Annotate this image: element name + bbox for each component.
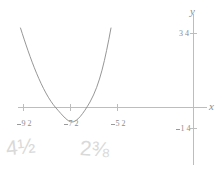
fraction: 7 2 [69, 120, 79, 128]
fraction: 3 4 [179, 30, 189, 38]
fraction-denominator: 2 [122, 119, 126, 128]
minus-sign [176, 129, 180, 130]
fraction-denominator: 2 [28, 119, 32, 128]
fraction: 5 2 [116, 120, 126, 128]
x-tick-label-neg-seven-halves: 7 2 [57, 113, 85, 135]
graph-figure: y x 9 2 7 2 5 2 3 4 [0, 0, 223, 171]
x-tick-label-neg-five-halves: 5 2 [104, 113, 132, 135]
fraction-numerator: 5 [116, 119, 120, 128]
fraction-denominator: 4 [187, 124, 191, 133]
fraction-numerator: 1 [181, 124, 185, 133]
fraction-numerator: 3 [179, 29, 183, 38]
y-axis-label: y [190, 6, 195, 17]
minus-sign [64, 124, 68, 125]
x-tick-label-neg-nine-halves: 9 2 [10, 113, 38, 135]
fraction-numerator: 9 [22, 119, 26, 128]
minus-sign [111, 124, 115, 125]
fraction-denominator: 2 [75, 119, 79, 128]
y-tick-label-three-fourths: 3 4 [176, 23, 192, 45]
fraction-numerator: 7 [69, 119, 73, 128]
fraction-denominator: 4 [185, 29, 189, 38]
y-tick-label-neg-one-fourth: 1 4 [172, 118, 194, 140]
handwritten-annotation-left: 4½ [5, 135, 36, 159]
fraction: 9 2 [22, 120, 32, 128]
x-axis-label: x [209, 101, 214, 112]
fraction: 1 4 [181, 125, 191, 133]
minus-sign [17, 124, 21, 125]
handwritten-annotation-center: 2⅜ [79, 137, 110, 160]
